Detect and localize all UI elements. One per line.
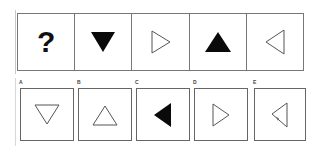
triangle-right-outline-icon — [150, 29, 172, 55]
option-e[interactable] — [254, 88, 306, 141]
option-a[interactable] — [20, 88, 74, 141]
margin-line — [15, 10, 16, 74]
question-sequence: ? — [17, 13, 304, 71]
option-label-c: C — [135, 79, 139, 85]
option-label-b: B — [77, 79, 81, 85]
sequence-cell-3 — [132, 14, 189, 70]
option-label-e: E — [253, 79, 256, 85]
option-c[interactable] — [136, 88, 190, 141]
sequence-cell-1: ? — [18, 14, 75, 70]
triangle-up-filled-icon — [204, 31, 232, 53]
triangle-right-outline-icon — [211, 102, 231, 128]
triangle-up-outline-icon — [92, 104, 118, 126]
option-b[interactable] — [78, 88, 132, 141]
option-label-d: D — [193, 79, 197, 85]
option-d[interactable] — [194, 88, 248, 141]
triangle-down-outline-icon — [34, 104, 60, 126]
question-mark: ? — [37, 27, 55, 57]
sequence-cell-5 — [247, 14, 303, 70]
triangle-down-filled-icon — [90, 31, 116, 53]
triangle-left-filled-icon — [153, 102, 173, 128]
margin-line — [15, 78, 16, 146]
option-label-a: A — [19, 79, 23, 85]
sequence-cell-2 — [75, 14, 132, 70]
triangle-left-outline-icon — [270, 101, 290, 129]
sequence-cell-4 — [190, 14, 247, 70]
triangle-left-outline-icon — [264, 28, 286, 56]
